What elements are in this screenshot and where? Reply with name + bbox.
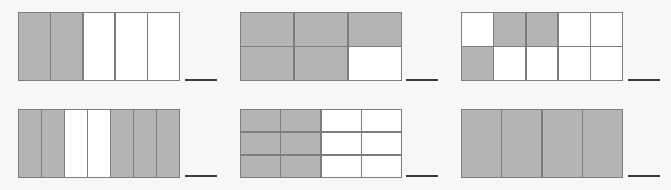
shaded-part <box>134 110 156 177</box>
fraction-model-5 <box>240 109 402 178</box>
shaded-part <box>295 13 347 46</box>
unshaded-part <box>148 13 179 80</box>
unshaded-part <box>527 47 558 80</box>
shaded-part <box>241 156 280 177</box>
unshaded-part <box>116 13 147 80</box>
fraction-model-6 <box>461 109 623 178</box>
unshaded-part <box>559 13 590 46</box>
shaded-part <box>295 47 347 80</box>
shaded-part <box>19 13 50 80</box>
unshaded-part <box>362 110 401 131</box>
shaded-part <box>494 13 525 46</box>
shaded-part <box>462 47 493 80</box>
fraction-model-4 <box>18 109 180 178</box>
shaded-part <box>42 110 64 177</box>
shaded-part <box>51 13 82 80</box>
shaded-part <box>502 110 541 177</box>
shaded-part <box>527 13 558 46</box>
shaded-part <box>111 110 133 177</box>
answer-blank-2[interactable] <box>406 79 438 81</box>
unshaded-part <box>494 47 525 80</box>
fraction-model-1 <box>18 12 180 81</box>
answer-blank-5[interactable] <box>406 175 438 177</box>
unshaded-part <box>349 47 401 80</box>
shaded-part <box>241 133 280 154</box>
shaded-part <box>583 110 622 177</box>
shaded-part <box>241 110 280 131</box>
unshaded-part <box>559 47 590 80</box>
shaded-part <box>157 110 179 177</box>
shaded-part <box>349 13 401 46</box>
unshaded-part <box>88 110 110 177</box>
answer-blank-4[interactable] <box>185 175 217 177</box>
shaded-part <box>241 13 293 46</box>
unshaded-part <box>322 110 361 131</box>
unshaded-part <box>84 13 115 80</box>
unshaded-part <box>591 47 622 80</box>
unshaded-part <box>322 133 361 154</box>
answer-blank-6[interactable] <box>628 175 660 177</box>
unshaded-part <box>65 110 87 177</box>
answer-blank-3[interactable] <box>628 79 660 81</box>
shaded-part <box>462 110 501 177</box>
unshaded-part <box>362 133 401 154</box>
shaded-part <box>281 133 320 154</box>
shaded-part <box>281 156 320 177</box>
fraction-model-3 <box>461 12 623 81</box>
unshaded-part <box>322 156 361 177</box>
shaded-part <box>241 47 293 80</box>
shaded-part <box>543 110 582 177</box>
shaded-part <box>19 110 41 177</box>
fraction-model-2 <box>240 12 402 81</box>
unshaded-part <box>362 156 401 177</box>
unshaded-part <box>462 13 493 46</box>
shaded-part <box>281 110 320 131</box>
answer-blank-1[interactable] <box>185 79 217 81</box>
unshaded-part <box>591 13 622 46</box>
